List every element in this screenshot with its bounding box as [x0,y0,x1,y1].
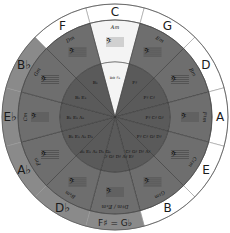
minor-key-label: Cm [22,112,28,121]
svg-text:𝄢: 𝄢 [181,113,186,122]
accidentals-label: F♯ C♯ [144,95,156,100]
svg-text:𝄢: 𝄢 [106,188,111,197]
minor-key-label: F♯m [202,111,208,123]
accidentals-label: F♯ [132,80,137,85]
accidentals-label: B♭ [93,80,98,85]
svg-text:𝄢: 𝄢 [41,76,46,85]
svg-text:𝄢: 𝄢 [69,178,74,187]
minor-key-label: Am [110,24,120,30]
major-key-label: A♭ [17,163,31,177]
accidentals-label: B♭ E♭ [75,95,86,100]
major-key-label: B [163,201,171,215]
major-key-label: C [111,5,119,19]
circle-of-fifths-wheel: CAm𝄢no ♯♭GEm𝄢F♯DBm𝄢F♯ C♯AF♯m𝄢F♯ C♯ G♯EC♯… [0,0,230,233]
svg-text:𝄢: 𝄢 [31,113,36,122]
major-key-label: B♭ [17,58,31,72]
svg-text:𝄢: 𝄢 [171,76,176,85]
accidentals-label: no ♯♭ [110,75,121,80]
major-key-label: E [202,163,210,177]
major-key-label: F [59,19,66,33]
circle-of-fifths-diagram: CAm𝄢no ♯♭GEm𝄢F♯DBm𝄢F♯ C♯AF♯m𝄢F♯ C♯ G♯EC♯… [0,0,230,233]
accidentals-label: B♭ E♭ A♭ D♭ G♭ [80,149,111,154]
svg-text:𝄢: 𝄢 [144,178,149,187]
major-key-label: D♭ [55,201,70,215]
accidentals-label: F♯ C♯ G♯ D♯ [137,134,162,139]
minor-key-label: D♯m / E♭m [101,204,129,210]
accidentals-label: B♭ E♭ A♭ [67,115,85,120]
svg-text:𝄢: 𝄢 [41,151,46,160]
major-key-label: A [216,110,225,124]
major-key-label: E♭ [3,110,16,124]
accidentals-label: F♯ C♯ G♯ [145,115,163,120]
svg-text:𝄢: 𝄢 [69,48,74,57]
accidentals-label: B♭ E♭ A♭ D♭ [68,134,92,139]
major-key-label: G [163,19,172,33]
major-key-label: F♯ = G♭ [98,218,132,228]
svg-text:𝄢: 𝄢 [144,48,149,57]
svg-text:𝄢: 𝄢 [171,151,176,160]
major-key-label: D [201,58,210,72]
svg-text:𝄢: 𝄢 [106,38,111,47]
